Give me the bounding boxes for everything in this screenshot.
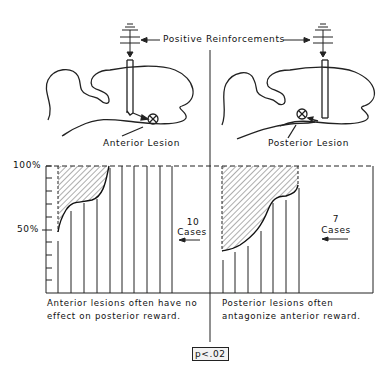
- y-axis: [42, 166, 52, 293]
- left-caption: Anterior lesions often have no effect on…: [47, 297, 197, 323]
- right-cases-word: Cases: [317, 225, 355, 235]
- electrode-icon-left: [120, 24, 140, 57]
- significance-box: p<.02: [192, 347, 229, 361]
- brain-outline-left: [46, 60, 193, 136]
- right-caption: Posterior lesions often antagonize anter…: [222, 297, 361, 323]
- left-cases-number: 10: [178, 217, 208, 227]
- right-caption-line2: antagonize anterior reward.: [222, 310, 361, 323]
- electrode-icon-right: [313, 24, 333, 57]
- y-tick-100: 100%: [13, 160, 41, 170]
- right-deficit-area: [222, 166, 298, 251]
- reinforcement-label: Positive Reinforcements: [163, 34, 285, 44]
- right-cases-number: 7: [321, 214, 351, 224]
- anterior-lesion-label: Anterior Lesion: [103, 138, 180, 148]
- y-tick-50: 50%: [17, 224, 39, 234]
- left-caption-line1: Anterior lesions often have no: [47, 297, 197, 310]
- posterior-lesion-label: Posterior Lesion: [268, 138, 349, 148]
- brain-outline-right: [222, 60, 374, 139]
- left-cases-word: Cases: [174, 227, 210, 237]
- right-cases-arrow: [322, 237, 348, 241]
- left-caption-line2: effect on posterior reward.: [47, 310, 197, 323]
- left-cases-arrow: [179, 238, 200, 242]
- right-caption-line1: Posterior lesions often: [222, 297, 361, 310]
